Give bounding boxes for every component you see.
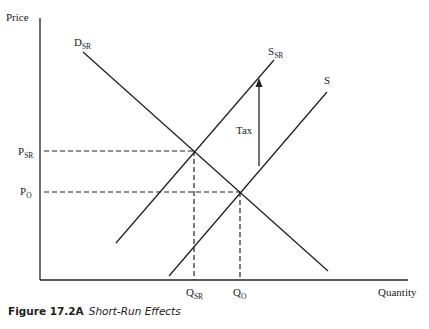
supply-demand-diagram: Price Quantity DSR SSR S Tax PSR PO QSR … — [0, 0, 429, 329]
supply-label: S — [324, 74, 330, 86]
q-o-label: QO — [233, 286, 247, 301]
p-o-label: PO — [20, 185, 32, 200]
short-run-supply-label: SSR — [268, 45, 283, 60]
demand-label: DSR — [74, 36, 91, 51]
q-sr-label: QSR — [186, 286, 203, 301]
figure-caption: Figure 17.2AShort-Run Effects — [8, 305, 181, 317]
x-axis-label: Quantity — [378, 286, 417, 298]
y-axis-label: Price — [6, 11, 29, 23]
short-run-supply-curve — [116, 60, 274, 243]
p-sr-label: PSR — [18, 145, 33, 160]
figure-number: Figure 17.2A — [8, 305, 85, 317]
figure-title: Short-Run Effects — [89, 305, 181, 317]
tax-label: Tax — [236, 124, 253, 136]
